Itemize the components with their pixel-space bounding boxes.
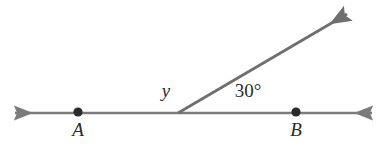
geometry-canvas: A B y 30° bbox=[0, 0, 386, 154]
angle-30-label: 30° bbox=[235, 80, 262, 101]
point-a-label: A bbox=[70, 119, 84, 140]
ray-vertex bbox=[178, 14, 347, 113]
angle-y-label: y bbox=[160, 80, 171, 101]
angle-diagram: A B y 30° bbox=[0, 0, 386, 154]
point-a-dot bbox=[73, 107, 82, 116]
point-b-dot bbox=[291, 107, 300, 116]
point-b-label: B bbox=[290, 119, 302, 140]
